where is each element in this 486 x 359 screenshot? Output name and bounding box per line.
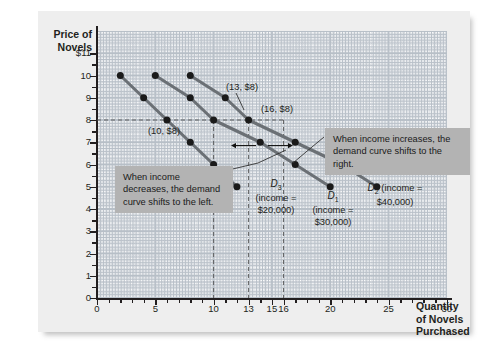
curve-label-d3-value: $20,000)	[245, 205, 307, 217]
data-point-D3	[233, 183, 240, 190]
annotation-income-decrease: When income decreases, the demand curve …	[115, 166, 233, 213]
curve-label-d2-income: (income =	[381, 183, 422, 193]
data-point-D1	[210, 117, 217, 124]
curve-label-d3-name: D3	[245, 178, 307, 193]
data-point-D1	[292, 161, 299, 168]
data-point-D3	[187, 139, 194, 146]
figure-root: Price of Novels Quantity of Novels Purch…	[0, 0, 486, 359]
data-point-D1	[187, 94, 194, 101]
curves-overlay	[0, 0, 486, 359]
annotation-income-increase: When income increases, the demand curve …	[325, 128, 470, 175]
data-point-D2	[245, 117, 252, 124]
curve-label-d3: D3 (income = $20,000)	[245, 178, 307, 216]
point-label-16-8: (16, $8)	[261, 104, 293, 114]
curve-label-d2-nameinc: D2 (income =	[355, 182, 435, 197]
shift-arrow-left-head	[231, 143, 236, 148]
curve-label-d2: D2 (income = $40,000)	[355, 182, 435, 209]
curve-label-d3-income: (income =	[245, 193, 307, 205]
data-point-D3	[117, 72, 124, 79]
data-point-D2	[292, 139, 299, 146]
data-point-D2	[187, 72, 194, 79]
data-point-D1	[152, 72, 159, 79]
data-point-D3	[140, 94, 147, 101]
curve-label-d1-value: $30,000)	[302, 217, 364, 229]
data-point-D2	[222, 94, 229, 101]
curve-label-d2-value: $40,000)	[355, 197, 435, 209]
data-point-D3	[163, 117, 170, 124]
point-label-10-8: (10, $8)	[148, 126, 180, 136]
data-point-D1	[257, 139, 264, 146]
point-label-13-8: (13, $8)	[226, 82, 258, 92]
